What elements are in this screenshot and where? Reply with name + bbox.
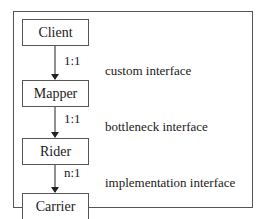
box-carrier: Carrier xyxy=(22,193,89,219)
multiplicity-label: 1:1 xyxy=(64,111,81,127)
multiplicity-label: 1:1 xyxy=(64,53,81,69)
box-label: Rider xyxy=(40,144,71,160)
box-client: Client xyxy=(22,19,89,46)
interface-label: custom interface xyxy=(105,63,191,79)
box-mapper: Mapper xyxy=(22,80,89,107)
box-label: Carrier xyxy=(36,199,76,215)
box-label: Mapper xyxy=(34,86,78,102)
box-rider: Rider xyxy=(22,138,89,165)
box-label: Client xyxy=(38,25,72,41)
multiplicity-label: n:1 xyxy=(64,165,81,181)
interface-label: bottleneck interface xyxy=(105,119,208,135)
interface-label: implementation interface xyxy=(105,175,235,191)
